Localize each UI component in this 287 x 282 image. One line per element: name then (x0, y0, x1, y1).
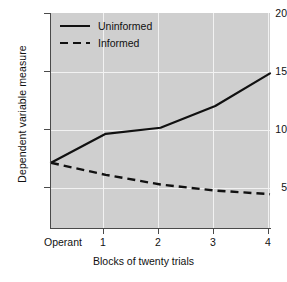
y-tick-mark (44, 13, 51, 14)
chart-legend: Uninformed Informed (60, 17, 152, 51)
legend-label: Uninformed (98, 20, 152, 32)
legend-swatch-dashed-icon (60, 38, 90, 48)
y-axis-title: Dependent variable measure (16, 29, 28, 199)
legend-label: Informed (98, 37, 139, 49)
y-tick-mark (44, 187, 51, 188)
x-tick-label-operant: Operant (28, 236, 98, 248)
x-tick-mark (268, 228, 269, 234)
x-tick-label: 2 (144, 236, 172, 248)
series-line-uninformed (51, 73, 270, 162)
y-tick-label: 20 (245, 7, 287, 19)
legend-item-informed: Informed (60, 34, 152, 51)
x-tick-mark (103, 228, 104, 234)
y-tick-mark (44, 129, 51, 130)
y-tick-mark (44, 71, 51, 72)
x-tick-mark (213, 228, 214, 234)
x-tick-label: 3 (199, 236, 227, 248)
y-tick-label: 5 (245, 181, 287, 193)
x-axis-title: Blocks of twenty trials (0, 255, 287, 267)
series-line-informed (51, 163, 270, 194)
x-tick-label: 4 (254, 236, 282, 248)
legend-item-uninformed: Uninformed (60, 17, 152, 34)
y-axis-line (50, 13, 51, 229)
x-tick-mark (158, 228, 159, 234)
chart-figure: Dependent variable measure 20 15 10 5 Op… (0, 0, 287, 282)
x-axis-line (50, 228, 271, 229)
legend-swatch-solid-icon (60, 21, 90, 31)
x-tick-label: 1 (89, 236, 117, 248)
y-tick-label: 10 (245, 123, 287, 135)
y-tick-label: 15 (245, 65, 287, 77)
